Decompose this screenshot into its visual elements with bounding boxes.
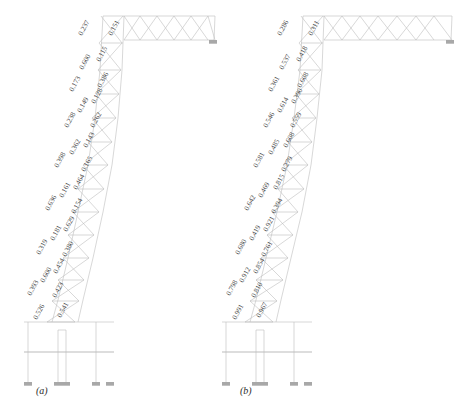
- value-label: 0.608: [282, 131, 297, 149]
- diagram-svg: 0.237 0.151 0.600 0.115 0.173 0.386 0.14…: [0, 0, 466, 417]
- value-label: 0.418: [295, 45, 310, 63]
- value-label: 0.608: [296, 71, 311, 89]
- value-label: 0.398: [53, 151, 68, 169]
- boom-b: [303, 16, 452, 40]
- value-label: 0.380: [61, 240, 76, 258]
- value-label: 0.485: [267, 138, 282, 156]
- value-label: 0.151: [107, 19, 122, 37]
- value-label: 0.173: [68, 75, 83, 93]
- value-label: 0.815: [272, 173, 287, 191]
- boom-b-tip-support: [446, 40, 454, 44]
- value-label: 0.912: [238, 266, 253, 284]
- base-frame-b: [222, 322, 312, 382]
- boom-a-tip-support: [209, 40, 217, 44]
- value-label: 0.262: [89, 111, 104, 129]
- value-label: 0.537: [278, 53, 293, 71]
- value-label: 0.386: [96, 71, 111, 89]
- value-label: 0.600: [78, 53, 93, 71]
- value-label: 0.798: [225, 279, 240, 297]
- value-label: 0.419: [248, 224, 263, 242]
- panel-b-caption: (b): [240, 385, 252, 396]
- value-label: 0.143: [82, 131, 97, 149]
- base-frame-a: [24, 322, 114, 382]
- value-label: 0.393: [26, 279, 41, 297]
- value-label: 0.614: [276, 96, 291, 114]
- value-label: 0.181: [49, 224, 64, 242]
- value-label: 0.636: [44, 194, 59, 212]
- value-label: 0.161: [58, 181, 73, 199]
- value-label: 0.559: [289, 111, 304, 129]
- value-label: 0.581: [252, 151, 267, 169]
- panel-b-value-labels: 0.286 0.311 0.537 0.418 0.361 0.608 0.61…: [225, 19, 322, 321]
- base-supports-b: [222, 382, 312, 386]
- value-label: 0.238: [63, 111, 78, 129]
- value-label: 0.526: [32, 303, 47, 321]
- value-label: 0.761: [260, 240, 275, 258]
- value-label: 0.600: [39, 266, 54, 284]
- value-label: 0.319: [35, 238, 50, 256]
- panel-a-caption: (a): [36, 385, 48, 396]
- value-label: 0.680: [234, 238, 249, 256]
- figure-container: 0.237 0.151 0.600 0.115 0.173 0.386 0.14…: [0, 0, 466, 417]
- value-label: 0.642: [243, 194, 258, 212]
- value-label: 0.469: [257, 181, 272, 199]
- value-label: 0.362: [68, 138, 83, 156]
- value-label: 0.115: [95, 45, 110, 63]
- value-label: 0.546: [262, 111, 277, 129]
- value-label: 0.286: [276, 19, 291, 37]
- value-label: 0.991: [231, 303, 246, 321]
- value-label: 0.361: [267, 75, 282, 93]
- value-label: 0.967: [255, 301, 270, 319]
- panel-a-value-labels: 0.237 0.151 0.600 0.115 0.173 0.386 0.14…: [26, 19, 122, 321]
- value-label: 0.311: [307, 19, 322, 37]
- panel-b: [222, 16, 454, 386]
- value-label: 0.423: [51, 281, 66, 299]
- value-label: 0.237: [77, 19, 92, 37]
- value-label: 0.810: [250, 281, 265, 299]
- value-label: 0.149: [76, 96, 91, 114]
